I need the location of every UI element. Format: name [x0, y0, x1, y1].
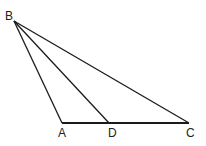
- label-b: B: [5, 9, 13, 23]
- segment-bc: [14, 21, 189, 123]
- label-c: C: [186, 126, 195, 140]
- label-d: D: [108, 126, 117, 140]
- triangle-diagram: B A D C: [0, 0, 206, 146]
- segment-ba: [14, 21, 62, 123]
- label-a: A: [58, 126, 66, 140]
- segment-bd: [14, 21, 109, 123]
